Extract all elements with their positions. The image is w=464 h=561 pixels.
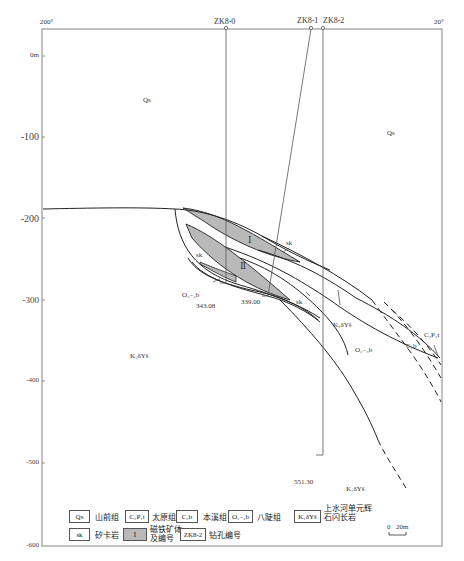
legend-label-o: 八陡组 [257, 513, 281, 522]
tick-minus-600: -600 [3, 542, 39, 549]
label-sk-2: sk [196, 252, 202, 259]
scale-bar-line [389, 532, 406, 535]
legend-label-c2b: 本溪组 [203, 513, 227, 522]
label-c2b: C₂b [406, 343, 417, 350]
tick-minus-200: -200 [3, 214, 39, 224]
legend-label-ore-line1: 磁铁矿体 [150, 525, 182, 534]
tick-0m: 0m [3, 52, 39, 59]
legend-label-qs: 山前组 [95, 513, 119, 522]
depth-label-zk8-0: 343.08 [196, 303, 215, 310]
tick-minus-500: -500 [3, 459, 39, 466]
legend-symbol-borehole: ZK8-2 [180, 528, 206, 541]
legend-label-borehole: 钻孔编号 [209, 531, 241, 540]
borehole-label-zk8-1: ZK8-1 [297, 17, 318, 25]
label-k-bottom: K₁δYš [346, 486, 365, 493]
cross-section-figure: 200° 20° ZK8-0 ZK8-1 ZK8-2 0m -100 -200 … [0, 0, 464, 561]
azimuth-right-label: 20° [434, 19, 444, 26]
legend-label-c2p1t: 太原组 [152, 513, 176, 522]
legend-symbol-o: O₂₋₃b [228, 510, 253, 523]
legend-symbol-c2b: C₂b [176, 510, 198, 523]
legend-symbol-ore: Ⅰ [123, 528, 147, 541]
label-sk-3: sk [296, 299, 302, 306]
depth-label-zk8-2: 551.30 [294, 479, 313, 486]
label-qs-left: Qs [143, 97, 151, 104]
cross-section-drawing [0, 0, 464, 561]
tick-minus-400: -400 [3, 377, 39, 384]
label-ore-body-2: Ⅱ [240, 262, 246, 271]
label-k-left: K₁δYš [130, 353, 149, 360]
depth-label-zk8-1: 339.00 [241, 299, 260, 306]
legend-symbol-k: K₁δYš [294, 510, 321, 523]
legend-symbol-qs: Qs [69, 510, 90, 523]
legend-symbol-c2p1t: C₂P₁t [125, 510, 149, 523]
label-qs-right: Qs [387, 130, 395, 137]
label-o-right: O₂₋₃b [355, 347, 372, 354]
legend-label-k-line1: 上水河单元辉 [324, 504, 372, 513]
tick-minus-100: -100 [3, 132, 39, 142]
scale-bar-end: 20m [396, 524, 408, 531]
borehole-label-zk8-2: ZK8-2 [323, 17, 344, 25]
legend-symbol-sk: sk [69, 528, 90, 541]
label-c2p1t: C₂P₁t [424, 332, 439, 339]
label-ore-body-1: Ⅰ [248, 236, 252, 245]
label-sk-1: sk [286, 240, 292, 247]
scale-bar-start: 0 [387, 524, 391, 531]
legend-label-k-line2: 石闪长岩 [324, 513, 356, 522]
label-o-lower: O₂₋₃b [182, 292, 199, 299]
label-k-mid: K₁δYš [333, 322, 352, 329]
azimuth-left-label: 200° [40, 19, 53, 26]
tick-minus-300: -300 [3, 296, 39, 305]
legend-label-ore-line2: 及编号 [150, 534, 174, 543]
borehole-label-zk8-0: ZK8-0 [214, 18, 235, 26]
legend-label-sk: 矽卡岩 [95, 531, 119, 540]
